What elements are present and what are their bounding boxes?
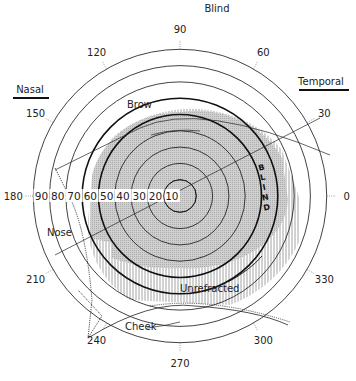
ring-label-60: 60 [84, 190, 97, 202]
meridian-label-330: 330 [315, 274, 334, 285]
ring-label-10: 10 [165, 190, 178, 202]
meridian-label-60: 60 [257, 47, 270, 58]
ring-label-30: 30 [133, 190, 146, 202]
label-nose: Nose [47, 227, 72, 238]
header-nasal: Nasal [16, 84, 44, 95]
label-unrefracted: Unrefracted [180, 283, 239, 294]
meridian-label-180: 180 [4, 191, 23, 202]
meridian-label-300: 300 [254, 335, 273, 346]
ring-label-20: 20 [149, 190, 162, 202]
meridian-label-90: 90 [174, 24, 187, 35]
header-blind: Blind [204, 3, 229, 14]
meridian-label-270: 270 [170, 358, 189, 369]
ring-label-80: 80 [51, 190, 64, 202]
ring-label-40: 40 [116, 190, 129, 202]
meridian-label-150: 150 [26, 108, 45, 119]
meridian-label-240: 240 [87, 335, 106, 346]
ring-label-90: 90 [35, 190, 48, 202]
header-temporal: Temporal [297, 76, 344, 87]
meridian-label-30: 30 [318, 108, 331, 119]
meridian-label-120: 120 [87, 47, 106, 58]
meridian-label-0: 0 [344, 191, 350, 202]
meridian-label-210: 210 [26, 274, 45, 285]
ring-label-50: 50 [100, 190, 113, 202]
ring-label-70: 70 [67, 190, 80, 202]
label-cheek: Cheek [125, 321, 157, 332]
visual-field-chart: 908070605040302010 906030033030027024021… [0, 0, 356, 381]
label-brow: Brow [127, 99, 152, 110]
